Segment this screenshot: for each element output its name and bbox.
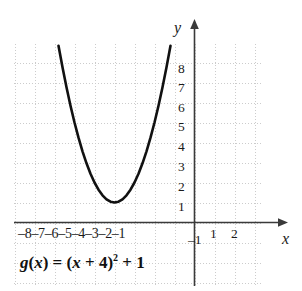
y-tick-label-8: 8 — [178, 62, 185, 76]
graph-figure: y x 8 7 6 5 4 3 2 1 –8–7–6–5–4–3–2–1 –1 … — [0, 0, 302, 291]
equation-arg: x — [34, 253, 43, 272]
equation-func-name: g — [20, 253, 29, 272]
x-tick-label-minus2: –2 — [98, 226, 111, 241]
x-axis-label: x — [282, 230, 289, 248]
equation-caption: g(x) = (x + 4)2 + 1 — [20, 252, 145, 273]
plot-canvas — [0, 0, 302, 291]
y-axis-label: y — [174, 19, 181, 37]
y-tick-label-2: 2 — [178, 180, 185, 194]
x-tick-label-minus7: –7 — [31, 226, 44, 241]
x-tick-label-minus1: –1 — [112, 226, 125, 241]
x-tick-label-minus3: –3 — [85, 226, 98, 241]
y-tick-label-1: 1 — [178, 200, 185, 214]
y-tick-label-6: 6 — [178, 101, 185, 115]
y-tick-label-5: 5 — [178, 120, 185, 134]
equation-plus-one: + 1 — [118, 253, 145, 272]
x-tick-label-minus6: –6 — [45, 226, 58, 241]
y-tick-label-minus1: –1 — [188, 233, 202, 247]
y-tick-label-7: 7 — [178, 81, 185, 95]
x-tick-label-minus4: –4 — [72, 226, 85, 241]
y-axis-arrow — [190, 19, 199, 29]
x-tick-label-minus5: –5 — [58, 226, 71, 241]
equation-equals: = ( — [48, 253, 72, 272]
x-tick-label-1: 1 — [210, 227, 217, 241]
x-tick-label-minus8: –8 — [18, 226, 31, 241]
y-tick-label-4: 4 — [178, 140, 185, 154]
parabola-curve — [59, 46, 171, 203]
x-axis-arrow — [278, 218, 288, 227]
x-tick-label-2: 2 — [231, 227, 238, 241]
x-tick-labels-negative: –8–7–6–5–4–3–2–1 — [18, 226, 125, 242]
equation-inner-var: x — [72, 253, 81, 272]
y-tick-label-3: 3 — [178, 160, 185, 174]
equation-plus-four: + 4) — [81, 253, 113, 272]
